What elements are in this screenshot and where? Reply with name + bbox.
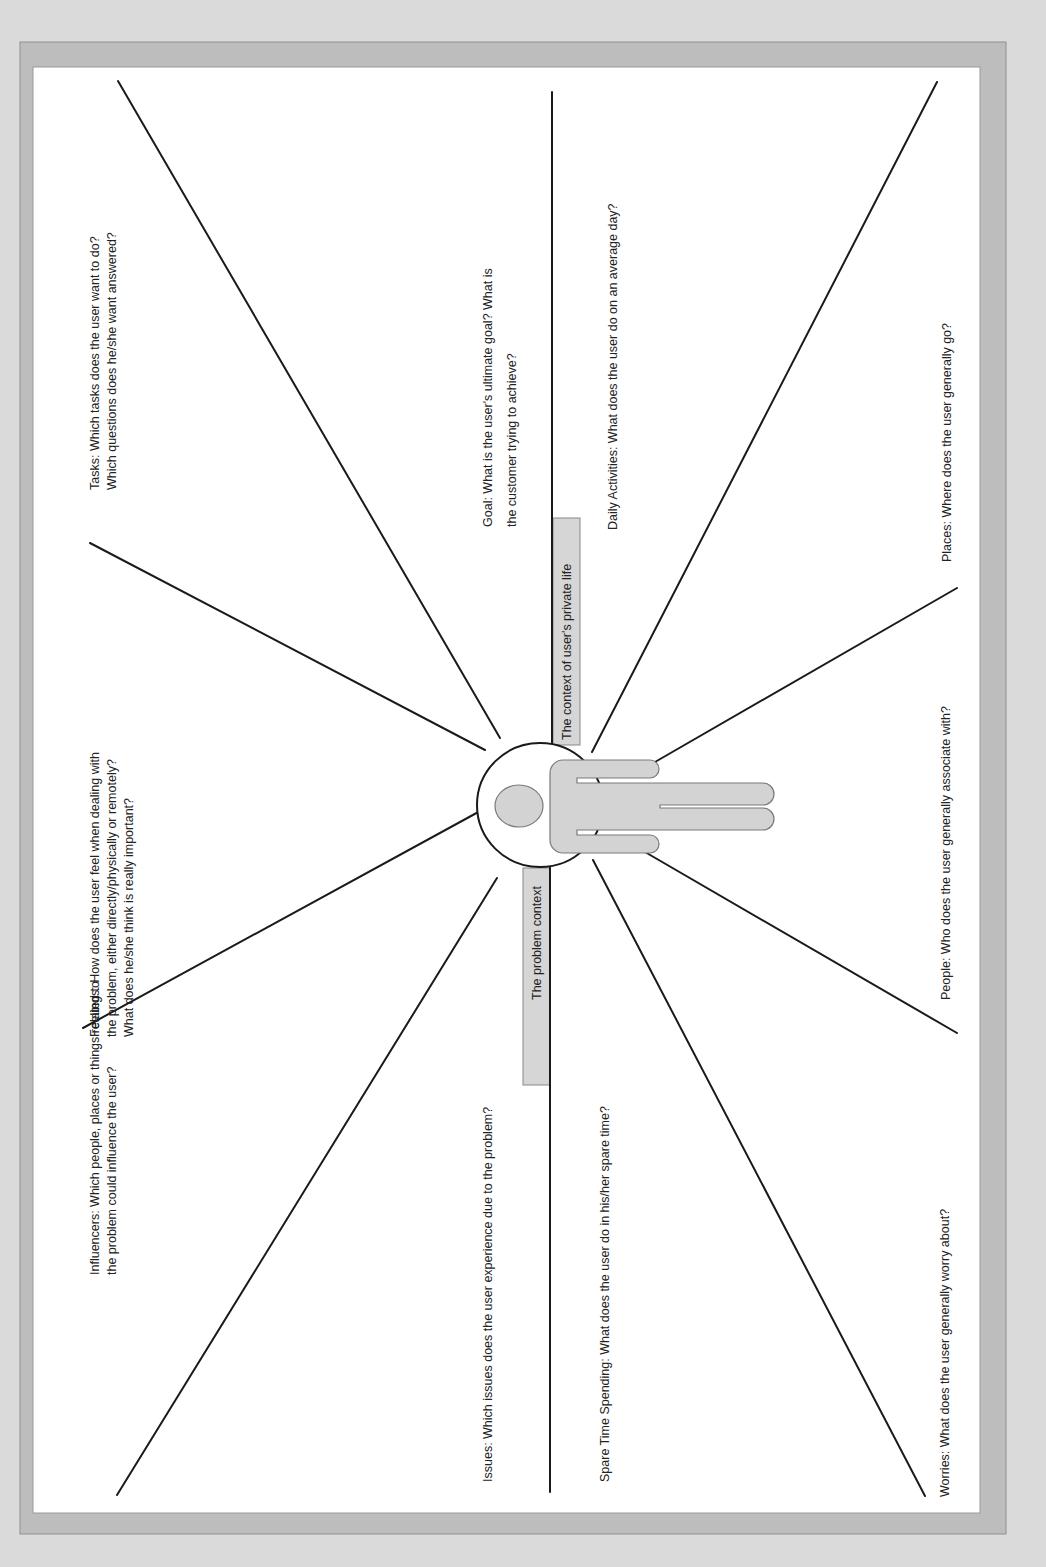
worries-question: Worries: What does the user generally wo…	[938, 1209, 952, 1497]
problem-label: The problem context	[530, 886, 544, 1000]
people-question: People: Who does the user generally asso…	[939, 706, 953, 1000]
private-life-label: The context of user's private life	[560, 564, 574, 740]
feelings-question-line3: What does he/she think is really importa…	[122, 798, 136, 1037]
tasks-question-line1: Tasks: Which tasks does the user want to…	[88, 236, 102, 490]
goal-question-line1: Goal: What is the user's ultimate goal? …	[481, 268, 495, 527]
influencers-question-line2: the problem could influence the user?	[105, 1066, 119, 1275]
daily-activities-question: Daily Activities: What does the user do …	[606, 203, 620, 530]
feelings-question-line2: the problem, either directly/physically …	[105, 759, 119, 1037]
tasks-question-line2: Which questions does he/she want answere…	[105, 232, 119, 490]
places-question: Places: Where does the user generally go…	[940, 323, 954, 562]
person-head	[495, 785, 543, 827]
spare-time-question: Spare Time Spending: What does the user …	[598, 1106, 612, 1482]
issues-question: Issues: Which issues does the user exper…	[481, 1107, 495, 1482]
user-context-diagram: The context of user's private life The p…	[0, 0, 1046, 1567]
goal-question-line2: the customer trying to achieve?	[505, 353, 519, 527]
influencers-question-line1: Influencers: Which people, places or thi…	[88, 981, 102, 1275]
